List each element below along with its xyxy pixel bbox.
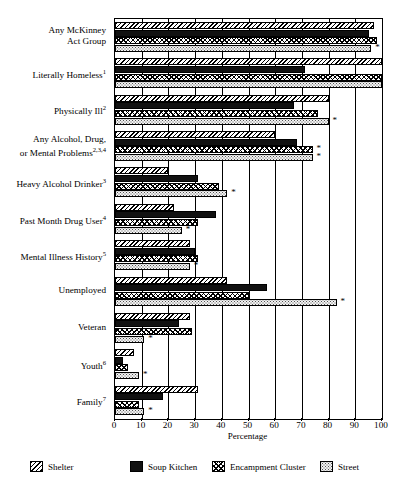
bar: [115, 66, 305, 73]
bar-group: *: [115, 240, 382, 270]
bar: [115, 37, 377, 44]
bar: [115, 408, 144, 415]
category-label: Past Month Drug User4: [0, 213, 106, 227]
bar: [115, 45, 371, 52]
category-label: Heavy Alcohol Drinker3: [0, 176, 106, 190]
bar-group: *: [115, 95, 382, 125]
significance-marker: *: [186, 226, 191, 233]
x-tick-label: 0: [112, 420, 117, 430]
category-label: Unemployed: [0, 285, 106, 296]
bar: [115, 299, 337, 306]
legend-label: Encampment Cluster: [230, 462, 306, 472]
bar-chart-figure: *********** Any McKinneyAct GroupLiteral…: [0, 0, 398, 488]
x-tick-label: 30: [190, 420, 199, 430]
significance-marker: *: [148, 407, 153, 414]
bar: [115, 30, 369, 37]
bar: [115, 190, 227, 197]
significance-marker: *: [341, 298, 346, 305]
legend-label: Street: [338, 462, 359, 472]
bar-group: *: [115, 386, 382, 416]
bar: [115, 139, 297, 146]
legend-item: Shelter: [30, 461, 74, 472]
x-tick-label: 60: [270, 420, 279, 430]
category-label: Family7: [0, 394, 106, 408]
bar: [115, 313, 190, 320]
category-label: Mental Illness History5: [0, 249, 106, 263]
bar: [115, 154, 313, 161]
bar: [115, 336, 144, 343]
x-tick-label: 90: [350, 420, 359, 430]
category-label: Any Alcohol, Drug,or Mental Problems2,3,…: [0, 134, 106, 158]
x-tick-label: 80: [323, 420, 332, 430]
x-tick-label: 100: [374, 420, 388, 430]
bar: [115, 227, 182, 234]
bar: [115, 118, 329, 125]
bar-group: *: [115, 349, 382, 379]
legend-label: Soup Kitchen: [148, 462, 197, 472]
bar-group: *: [115, 277, 382, 307]
legend: ShelterSoup KitchenEncampment ClusterStr…: [0, 461, 398, 481]
legend-item: Soup Kitchen: [130, 461, 197, 472]
bar: [115, 95, 329, 102]
legend-swatch: [320, 461, 333, 472]
bar: [115, 22, 374, 29]
bar: [115, 146, 313, 153]
bar: [115, 175, 198, 182]
significance-marker: *: [231, 189, 236, 196]
bar: [115, 284, 267, 291]
bar: [115, 74, 382, 81]
significance-marker: *: [317, 153, 322, 160]
legend-swatch: [212, 461, 225, 472]
x-axis-title: Percentage: [114, 431, 381, 441]
significance-marker: *: [375, 44, 380, 51]
bar: [115, 357, 123, 364]
significance-marker: *: [333, 117, 338, 124]
bar: [115, 364, 128, 371]
x-tick-label: 70: [296, 420, 305, 430]
bar: [115, 248, 195, 255]
x-tick-label: 50: [243, 420, 252, 430]
legend-item: Street: [320, 461, 359, 472]
bar-group: *: [115, 313, 382, 343]
bar: [115, 110, 318, 117]
bar: [115, 401, 139, 408]
legend-swatch: [30, 461, 43, 472]
legend-swatch: [130, 461, 143, 472]
bar-group: *: [115, 167, 382, 197]
bar: [115, 277, 227, 284]
x-tick-label: 20: [163, 420, 172, 430]
bar: [115, 255, 198, 262]
category-label: Literally Homeless1: [0, 67, 106, 81]
x-axis-ticks: 0102030405060708090100: [114, 418, 381, 432]
bar: [115, 204, 174, 211]
bar: [115, 240, 190, 247]
bar: [115, 320, 179, 327]
bar: [115, 292, 249, 299]
significance-marker: *: [143, 371, 148, 378]
legend-item: Encampment Cluster: [212, 461, 306, 472]
plot-area: ***********: [114, 18, 383, 420]
bar-group: **: [115, 131, 382, 161]
bar: [115, 81, 382, 88]
bar-group: [115, 58, 382, 88]
bar: [115, 263, 190, 270]
bar: [115, 167, 168, 174]
category-label: Veteran: [0, 322, 106, 333]
category-label: Physically Ill2: [0, 103, 106, 117]
bar: [115, 183, 219, 190]
bar: [115, 393, 163, 400]
bar: [115, 386, 198, 393]
significance-marker: *: [194, 262, 199, 269]
bar-group: *: [115, 22, 382, 52]
legend-label: Shelter: [48, 462, 74, 472]
x-tick-label: 40: [216, 420, 225, 430]
bar: [115, 328, 192, 335]
bar: [115, 211, 216, 218]
bar: [115, 372, 139, 379]
bar: [115, 58, 382, 65]
category-label: Any McKinneyAct Group: [0, 25, 106, 46]
bar-group: *: [115, 204, 382, 234]
category-axis-labels: Any McKinneyAct GroupLiterally Homeless1…: [0, 18, 110, 418]
category-label: Youth6: [0, 358, 106, 372]
bar: [115, 349, 134, 356]
